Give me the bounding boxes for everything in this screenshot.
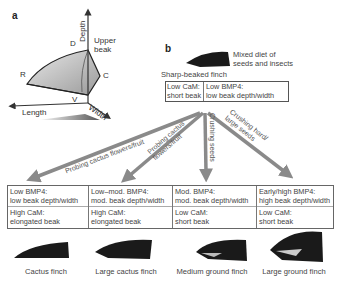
ancestor-diet-label: Mixed diet of seeds and insects xyxy=(233,51,293,68)
large-ground-finch-caption: Large ground finch xyxy=(252,267,336,276)
medium-ground-finch-bmp4-cell: Mod. BMP4: mod. beak depth/width xyxy=(173,186,256,207)
large-cactus-finch-cam-cell: High CaM: elongated beak xyxy=(89,207,172,228)
length-axis-label: Length xyxy=(22,108,46,117)
medium-ground-finch-caption: Medium ground finch xyxy=(170,267,254,276)
cactus-finch-bmp4-cell: Low BMP4: low beak depth/width xyxy=(8,186,88,207)
point-c-label: C xyxy=(103,71,109,80)
cactus-finch-cam-cell: High CaM: elongated beak xyxy=(8,207,88,228)
ancestor-gene-box: Low CaM: short beak Low BMP4: low beak d… xyxy=(165,81,289,102)
panel-a-label: a xyxy=(12,10,18,21)
large-ground-finch-beak xyxy=(270,231,323,262)
point-r-label: R xyxy=(20,70,26,79)
large-ground-finch-bmp4-cell: Early/high BMP4: high beak depth/width xyxy=(257,186,334,207)
large-cactus-finch-beak xyxy=(95,240,152,259)
cactus-finch-caption: Cactus finch xyxy=(4,267,88,276)
large-cactus-finch-bmp4-cell: Low–mod. BMP4: mod. beak depth/width xyxy=(89,186,172,207)
large-ground-finch-cam-cell: Low CaM: short beak xyxy=(257,207,334,228)
ancestor-bmp4-cell: Low BMP4: low beak depth/width xyxy=(204,82,290,101)
point-d-label: D xyxy=(70,39,76,48)
ancestor-beak-image xyxy=(186,52,230,67)
ancestor-name: Sharp-beaked finch xyxy=(161,70,227,79)
ancestor-cam-cell: Low CaM: short beak xyxy=(166,82,203,101)
panel-b-label: b xyxy=(165,43,171,54)
depth-axis-label: Depth xyxy=(78,21,87,42)
medium-ground-finch-beak xyxy=(196,240,247,261)
large-cactus-finch-caption: Large cactus finch xyxy=(84,267,168,276)
descendant-gene-table: Low BMP4: low beak depth/width Low–mod. … xyxy=(7,185,334,229)
arrow-label-crushing-seeds: Crushing seeds xyxy=(209,113,216,162)
medium-ground-finch-cam-cell: Low CaM: short beak xyxy=(173,207,256,228)
upper-beak-label: Upper beak xyxy=(94,36,116,54)
point-v-label: V xyxy=(72,95,77,104)
cactus-finch-beak xyxy=(14,242,69,258)
